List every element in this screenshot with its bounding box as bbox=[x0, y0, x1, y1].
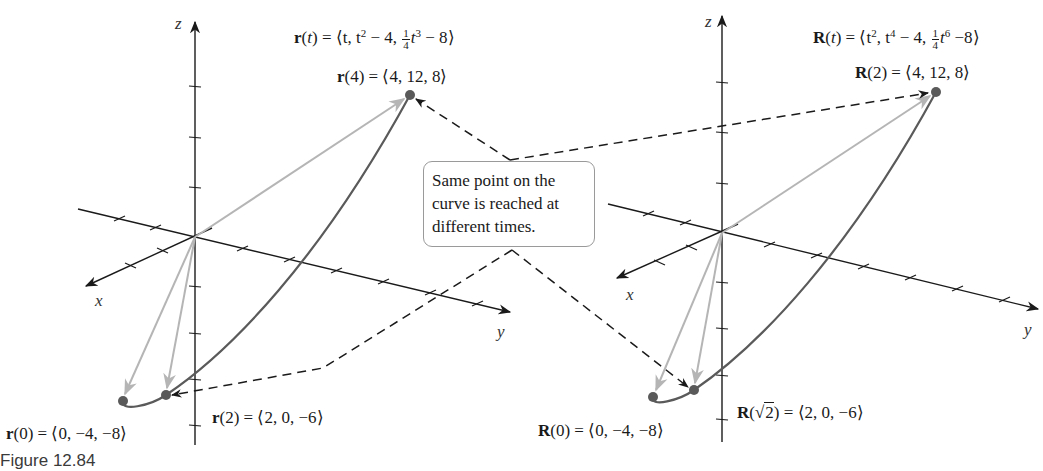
right-point-Rsqrt2 bbox=[689, 385, 699, 395]
right-vector-Rsqrt2 bbox=[695, 233, 722, 383]
left-z-label: z bbox=[175, 14, 182, 34]
left-label-r2: r(2) = ⟨2, 0, −6⟩ bbox=[212, 409, 324, 426]
left-curve bbox=[123, 95, 410, 407]
left-vector-r2 bbox=[167, 237, 195, 388]
right-vector-R2 bbox=[722, 96, 930, 233]
left-vector-r4 bbox=[195, 99, 404, 237]
left-fn-name: r bbox=[294, 28, 302, 47]
left-point-r2 bbox=[161, 390, 171, 400]
right-x-label: x bbox=[626, 285, 634, 305]
left-point-r4 bbox=[405, 90, 415, 100]
left-point-r0 bbox=[118, 396, 128, 406]
right-point-R0 bbox=[648, 392, 658, 402]
figure-caption: Figure 12.84 bbox=[0, 451, 95, 471]
left-x-axis bbox=[86, 228, 212, 286]
leader-to-R2 bbox=[510, 93, 928, 160]
right-function-label: R(t) = ⟨t2, t4 − 4, 14t6 −8⟩ bbox=[813, 28, 980, 51]
right-label-R2: R(2) = ⟨4, 12, 8⟩ bbox=[855, 64, 970, 81]
callout-box: Same point on the curve is reached at di… bbox=[423, 161, 595, 247]
left-function-label: r(t) = ⟨t, t2 − 4, 14t3 − 8⟩ bbox=[294, 28, 455, 51]
left-x-label: x bbox=[95, 291, 103, 311]
right-fn-name: R bbox=[813, 28, 825, 47]
leader-to-Rsqrt2 bbox=[512, 250, 688, 387]
right-plot bbox=[608, 16, 1038, 442]
left-label-r4: r(4) = ⟨4, 12, 8⟩ bbox=[337, 68, 447, 85]
left-y-label: y bbox=[497, 322, 505, 342]
left-label-r0: r(0) = ⟨0, −4, −8⟩ bbox=[6, 425, 127, 442]
right-label-R0: R(0) = ⟨0, −4, −8⟩ bbox=[538, 422, 664, 439]
right-x-axis bbox=[617, 224, 738, 278]
left-vector-r0 bbox=[125, 237, 195, 394]
right-y-label: y bbox=[1024, 320, 1032, 340]
left-fraction: 14 bbox=[402, 28, 410, 51]
right-curve bbox=[653, 92, 936, 402]
right-fraction: 14 bbox=[932, 28, 940, 51]
right-z-label: z bbox=[705, 12, 712, 32]
right-point-R2 bbox=[931, 87, 941, 97]
right-label-Rsqrt2: R(√2) = ⟨2, 0, −6⟩ bbox=[737, 404, 864, 421]
right-y-axis bbox=[608, 204, 1038, 309]
leader-to-r4 bbox=[416, 99, 510, 160]
